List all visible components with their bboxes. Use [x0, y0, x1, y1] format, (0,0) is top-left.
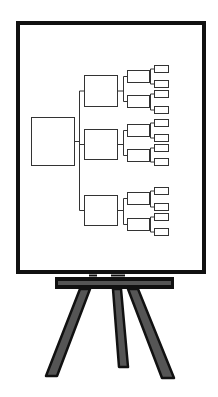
org-chart-leaf-box	[155, 159, 169, 166]
org-chart-level2-box	[128, 150, 150, 162]
org-chart-level1-box-3	[85, 196, 118, 226]
org-chart-level2-box	[128, 125, 150, 137]
org-chart-leaf-box	[155, 188, 169, 195]
org-chart-leaf-box	[155, 204, 169, 211]
org-chart-level1-box-1	[85, 76, 118, 107]
org-chart-leaf-box	[155, 91, 169, 98]
easel-leg-center	[113, 289, 128, 367]
easel-illustration	[0, 0, 218, 397]
org-chart-leaf-box	[155, 107, 169, 114]
org-chart-leaf-box	[155, 120, 169, 127]
org-chart-leaf-box	[155, 214, 169, 221]
easel-leg-left	[46, 289, 90, 376]
org-chart-leaf-box	[155, 66, 169, 73]
org-chart-leaf-box	[155, 81, 169, 88]
org-chart-level1-box-2	[85, 130, 118, 160]
org-chart-level2-box	[128, 71, 150, 83]
org-chart-level2-box	[128, 96, 150, 108]
easel-crossbar	[55, 277, 174, 289]
org-chart-root-box	[32, 118, 75, 166]
org-chart-leaf-box	[155, 229, 169, 236]
org-chart-leaf-box	[155, 135, 169, 142]
org-chart-level2-box	[128, 219, 150, 231]
org-chart-level2-box	[128, 193, 150, 205]
easel-leg-right	[128, 289, 174, 378]
org-chart-leaf-box	[155, 145, 169, 152]
easel-legs	[46, 289, 174, 378]
crossbar-inner	[58, 281, 171, 285]
easel-svg	[0, 0, 218, 397]
